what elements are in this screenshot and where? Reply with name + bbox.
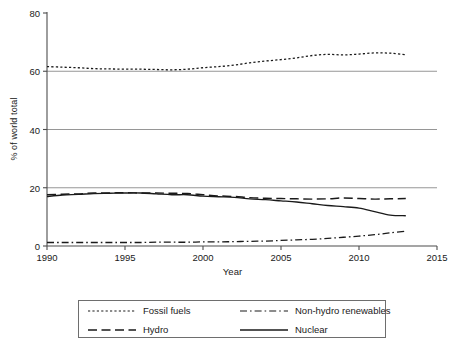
x-tick-label-2015: 2015 bbox=[417, 252, 457, 263]
x-axis-title: Year bbox=[0, 266, 465, 277]
y-tick-label-60: 60 bbox=[18, 66, 40, 77]
chart-figure: % of world total Year 0 20 40 60 80 1990… bbox=[0, 0, 465, 346]
legend-label-non-hydro-renewables: Non-hydro renewables bbox=[295, 306, 391, 316]
y-tick-label-40: 40 bbox=[18, 125, 40, 136]
legend-item-hydro: Hydro bbox=[79, 320, 231, 339]
legend-label-fossil-fuels: Fossil fuels bbox=[143, 306, 191, 316]
chart-legend: Fossil fuels Non-hydro renewables Hydro … bbox=[78, 300, 386, 338]
legend-swatch-solid bbox=[239, 325, 289, 335]
series-line-non-hydro-renewables bbox=[47, 231, 406, 242]
x-tick-label-2000: 2000 bbox=[183, 252, 223, 263]
legend-label-hydro: Hydro bbox=[143, 325, 168, 335]
legend-swatch-dotted bbox=[87, 306, 137, 316]
x-tick-label-2005: 2005 bbox=[261, 252, 301, 263]
x-tick-label-2010: 2010 bbox=[339, 252, 379, 263]
legend-swatch-dash-dot bbox=[239, 306, 289, 316]
legend-swatch-long-dash bbox=[87, 325, 137, 335]
x-tick-label-1990: 1990 bbox=[27, 252, 67, 263]
legend-item-nuclear: Nuclear bbox=[231, 320, 387, 339]
legend-label-nuclear: Nuclear bbox=[295, 325, 328, 335]
line-chart-plot bbox=[0, 0, 465, 346]
y-tick-label-80: 80 bbox=[18, 8, 40, 19]
y-tick-label-20: 20 bbox=[18, 183, 40, 194]
legend-item-fossil-fuels: Fossil fuels bbox=[79, 301, 231, 320]
series-line-fossil-fuels bbox=[47, 53, 406, 70]
legend-item-non-hydro-renewables: Non-hydro renewables bbox=[231, 301, 387, 320]
x-tick-label-1995: 1995 bbox=[105, 252, 145, 263]
y-tick-label-0: 0 bbox=[18, 241, 40, 252]
